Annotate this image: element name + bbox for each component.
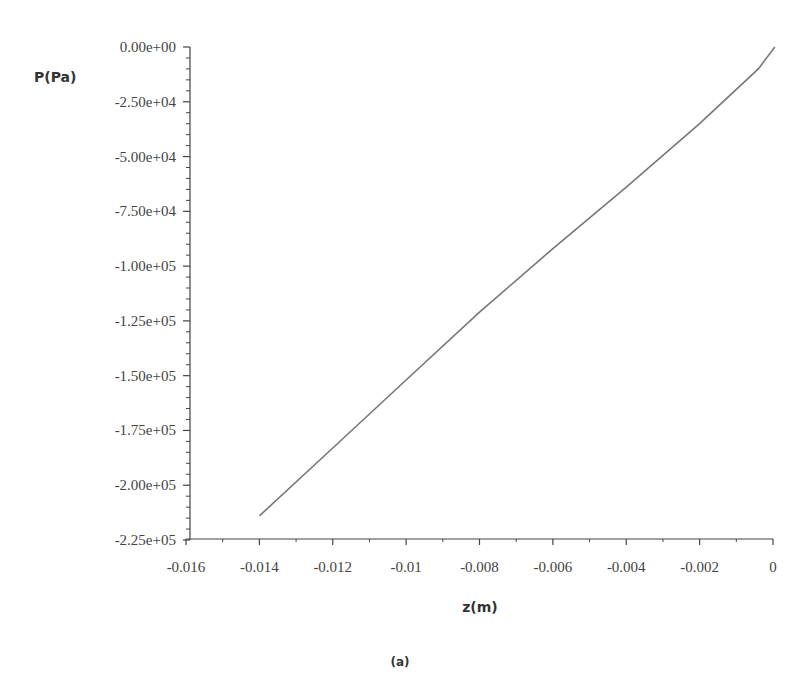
x-tick-label: -0.014: [240, 559, 279, 575]
data-series: [259, 47, 774, 516]
y-tick-label: -7.50e+04: [115, 203, 177, 219]
y-tick-label: -2.25e+05: [115, 532, 176, 548]
x-tick-label: -0.008: [460, 559, 499, 575]
x-tick-label: -0.01: [391, 559, 422, 575]
y-tick-label: -1.75e+05: [115, 422, 176, 438]
y-tick-label: -1.25e+05: [115, 313, 176, 329]
y-tick-label: -2.00e+05: [115, 477, 176, 493]
x-tick-label: 0: [769, 559, 777, 575]
pressure-line: [259, 47, 774, 516]
x-tick-label: -0.006: [534, 559, 573, 575]
y-tick-label: -5.00e+04: [115, 149, 177, 165]
x-axis-title: z(m): [462, 599, 498, 615]
x-tick-label: -0.002: [680, 559, 719, 575]
y-axis: 0.00e+00-2.50e+04-5.00e+04-7.50e+04-1.00…: [115, 39, 190, 548]
y-tick-label: -2.50e+04: [115, 94, 177, 110]
y-axis-title: P(Pa): [34, 69, 76, 85]
x-tick-label: -0.016: [167, 559, 206, 575]
x-tick-label: -0.004: [607, 559, 646, 575]
x-axis: -0.016-0.014-0.012-0.01-0.008-0.006-0.00…: [167, 539, 777, 575]
y-tick-label: -1.00e+05: [115, 258, 176, 274]
y-tick-label: -1.50e+05: [115, 368, 176, 384]
y-tick-label: 0.00e+00: [120, 39, 176, 55]
x-tick-label: -0.012: [313, 559, 352, 575]
figure-caption: (a): [390, 655, 409, 669]
pressure-chart: 0.00e+00-2.50e+04-5.00e+04-7.50e+04-1.00…: [0, 0, 811, 681]
